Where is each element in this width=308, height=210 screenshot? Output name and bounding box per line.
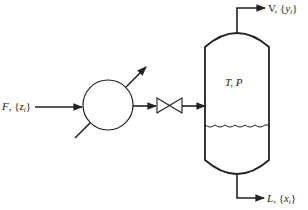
heat-exchanger <box>83 80 133 130</box>
liquid-outlet-arrow <box>237 174 264 198</box>
feed-label: F, {zi} <box>2 101 31 114</box>
drum-conditions-label: T, P <box>225 77 243 88</box>
throttle-valve <box>157 98 182 113</box>
heating-medium-outlet-arrow <box>126 67 146 87</box>
vapor-product-label: V, {yi} <box>268 3 297 16</box>
liquid-level <box>205 125 269 127</box>
heating-medium-inlet <box>75 123 90 138</box>
flash-drum-vessel <box>205 33 269 174</box>
vapor-outlet-arrow <box>237 8 265 33</box>
liquid-product-label: L, {xi} <box>267 193 296 206</box>
flash-drum-diagram <box>0 0 308 210</box>
